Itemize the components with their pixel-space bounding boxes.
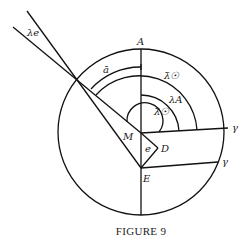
label-m: M (122, 131, 134, 142)
label-lambda-bar-sun-inner: λ̄☉ (153, 106, 170, 117)
line-m-direction (13, 27, 141, 133)
label-gamma-upper: γ (232, 122, 238, 133)
label-eccentricity: e (145, 143, 151, 154)
figure-9-diagram: A M D E e γ γ λe ā λ̄☉ λA λ̄☉ FIGURE 9 (0, 0, 251, 244)
gamma-line-lower (141, 162, 218, 168)
label-e-point: E (142, 173, 151, 184)
label-lambda-bar-sun-outer: λ̄☉ (163, 70, 180, 81)
label-a-bar: ā (103, 64, 109, 75)
arc-a-bar (91, 67, 141, 89)
label-lambda-a: λA (168, 94, 183, 105)
figure-caption: FIGURE 9 (116, 225, 167, 237)
label-gamma-lower: γ (222, 156, 228, 167)
label-a: A (136, 36, 144, 47)
label-d: D (160, 143, 169, 154)
gamma-line-upper (141, 128, 228, 133)
line-e-direction (27, 11, 141, 168)
label-lambda-e: λe (26, 27, 39, 38)
